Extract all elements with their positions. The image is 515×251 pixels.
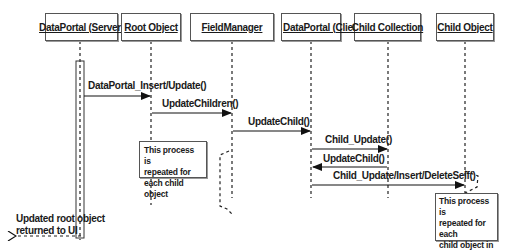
message-label: UpdateChild(): [248, 116, 310, 127]
note-line: each child object: [144, 178, 202, 200]
message-label: Child_Update(): [325, 134, 392, 145]
lifeline-box-dp-server: DataPortal (Server): [45, 13, 118, 41]
message-label: DataPortal_Insert/Update(): [88, 80, 206, 91]
lifeline-box-child-object: Child Object: [436, 13, 494, 41]
note-line: repeated for: [144, 167, 202, 178]
return-line: Updated root object: [16, 213, 74, 225]
return-label: Updated root object returned to UI: [16, 213, 74, 237]
note-line: This process is: [144, 145, 202, 167]
note-line: repeated for each: [439, 218, 494, 240]
note-repeat-collection: This process is repeated for each child …: [435, 193, 498, 241]
return-line: returned to UI: [16, 225, 74, 237]
message-label: Child_Update/Insert/DeleteSelf(): [333, 170, 476, 181]
note-repeat-child: This process is repeated for each child …: [139, 141, 207, 178]
message-label: UpdateChild(): [323, 153, 385, 164]
message-label: UpdateChildren(): [162, 98, 238, 109]
note-line: This process is: [439, 196, 494, 218]
lifeline-box-fieldmanager: FieldManager: [190, 13, 274, 41]
lifeline-box-root-object: Root Object: [121, 13, 181, 41]
lifeline-box-dp-client: DataPortal (Client): [281, 13, 341, 41]
note-line: child object in: [439, 240, 494, 251]
lifeline-box-child-collection: Child Collection: [354, 13, 421, 41]
